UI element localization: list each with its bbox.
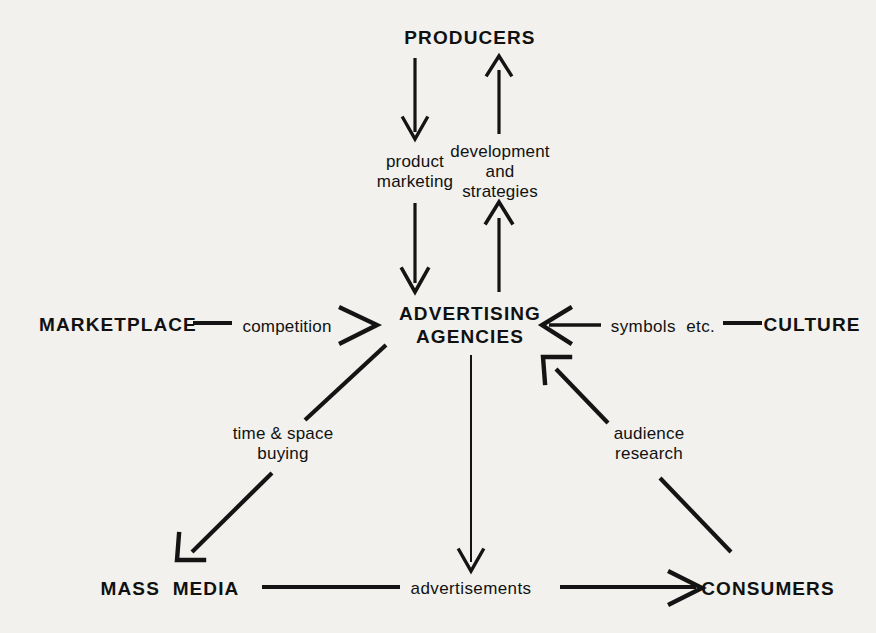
edge-label-competition: competition [242,317,331,337]
edge-label-audience-research: audience research [614,424,685,464]
node-mass-media[interactable]: MASS MEDIA [101,578,240,600]
node-marketplace[interactable]: MARKETPLACE [39,314,197,336]
edge-label-product-marketing: product marketing [377,152,453,192]
edge-label-time-space-buying: time & space buying [233,424,334,464]
diagram-canvas: PRODUCERS MARKETPLACE ADVERTISING AGENCI… [0,0,876,633]
edge-label-development-strategies: development and strategies [450,142,550,202]
edge-agencies-to-advertisements [459,355,483,571]
node-advertising-agencies[interactable]: ADVERTISING AGENCIES [399,302,541,348]
node-consumers[interactable]: CONSUMERS [701,578,834,600]
edge-label-advertisements: advertisements [411,579,532,599]
node-culture[interactable]: CULTURE [763,314,860,336]
edge-advertisements-to-consumers [560,572,702,604]
edge-label-symbols-etc: symbols etc. [611,317,715,337]
node-producers[interactable]: PRODUCERS [404,27,535,49]
